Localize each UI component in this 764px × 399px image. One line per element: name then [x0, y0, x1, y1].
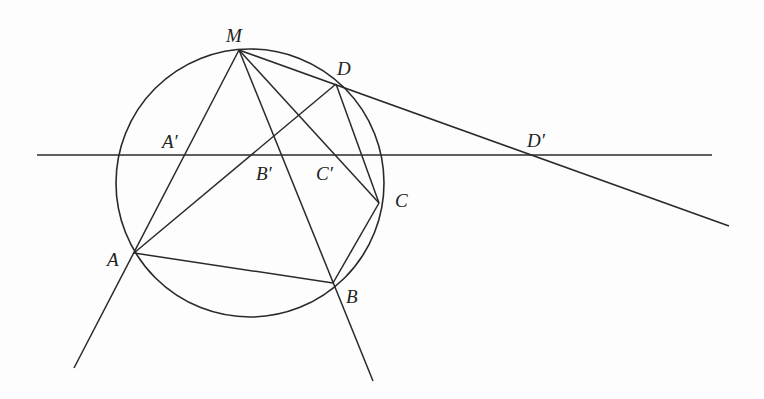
line-M-B-extended: [239, 50, 373, 381]
line-M-D-extended: [239, 50, 729, 226]
line-M-A-extended: [74, 50, 239, 368]
diagram-canvas: [0, 0, 764, 399]
point-label-B: B: [346, 287, 358, 306]
point-label-A: A: [107, 250, 119, 269]
segment-A-D: [134, 84, 336, 253]
segment-A-B: [134, 253, 333, 283]
point-label-B-prime: B′: [256, 164, 272, 183]
circumcircle: [116, 49, 384, 317]
point-label-C-prime: C′: [316, 164, 333, 183]
line-segments: [37, 50, 729, 381]
point-label-C: C: [395, 191, 408, 210]
segment-B-C: [333, 203, 379, 283]
point-label-M: M: [226, 26, 242, 45]
point-label-D: D: [337, 59, 351, 78]
point-label-D-prime: D′: [527, 131, 545, 150]
geometry-diagram: MDCBAA′B′C′D′: [0, 0, 764, 399]
point-label-A-prime: A′: [162, 132, 178, 151]
